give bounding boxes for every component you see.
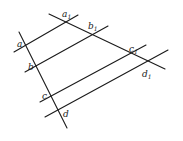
diagram-svg: a b c d a1 b1 c1 d1 [0,0,183,141]
parallel-a-line [14,15,78,52]
label-b: b [28,62,34,72]
diagram-canvas: a b c d a1 b1 c1 d1 [0,0,183,141]
transversal-left-line [19,32,67,128]
label-c1: c1 [129,44,138,55]
label-a1: a1 [62,9,71,20]
label-b1: b1 [88,21,98,32]
parallel-b-line [25,26,108,72]
label-c: c [42,91,47,101]
label-d: d [63,109,69,119]
label-d1: d1 [142,69,152,80]
parallel-d-line [45,50,168,117]
label-a: a [17,39,22,49]
